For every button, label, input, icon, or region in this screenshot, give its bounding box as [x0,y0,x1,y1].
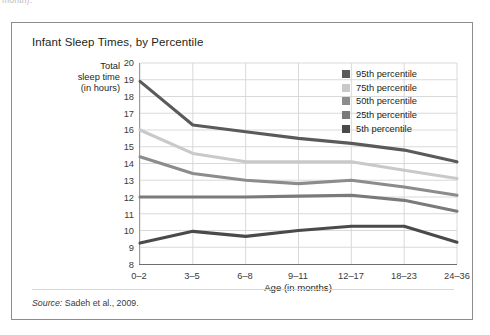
legend-item[interactable]: 95th percentile [342,67,417,81]
y-axis-title-line-3: (in hours) [36,83,120,94]
legend-label: 95th percentile [356,69,417,79]
source-label: Source: [32,298,62,308]
source-note: Source: Sadeh et al., 2009. [32,298,139,308]
y-tick-label: 16 [112,125,134,135]
clipped-top-text: month). [2,0,32,5]
y-tick-label: 11 [112,210,134,220]
y-tick-label: 9 [112,243,134,253]
y-tick-label: 8 [112,260,134,270]
legend-swatch-icon [342,70,350,78]
x-tick-label: 24–36 [444,271,470,281]
y-tick-label: 19 [112,75,134,85]
footer-divider [32,289,454,290]
series-line [140,195,457,211]
legend-item[interactable]: 5th percentile [342,122,417,136]
source-citation: Sadeh et al., 2009. [62,298,138,308]
legend-label: 25th percentile [356,110,417,120]
y-tick-label: 13 [112,176,134,186]
y-axis-title: Total sleep time (in hours) [36,61,120,95]
legend-item[interactable]: 75th percentile [342,81,417,95]
chart-legend: 95th percentile75th percentile50th perce… [342,67,417,136]
legend-swatch-icon [342,84,350,92]
y-tick-label: 18 [112,92,134,102]
y-tick-label: 15 [112,142,134,152]
x-tick-label: 0–2 [131,271,147,281]
legend-label: 75th percentile [356,83,417,93]
legend-item[interactable]: 50th percentile [342,95,417,109]
legend-label: 50th percentile [356,96,417,106]
legend-swatch-icon [342,111,350,119]
x-tick-label: 18–23 [391,271,417,281]
y-axis-title-line-1: Total [36,61,120,72]
x-tick-label: 3–5 [184,271,200,281]
y-tick-label: 17 [112,109,134,119]
y-axis-title-line-2: sleep time [36,72,120,83]
legend-item[interactable]: 25th percentile [342,108,417,122]
legend-swatch-icon [342,125,350,133]
y-tick-label: 14 [112,159,134,169]
figure-frame: Infant Sleep Times, by Percentile Total … [11,22,473,320]
x-axis-title: Age (in months) [139,282,457,293]
y-tick-label: 12 [112,193,134,203]
x-tick-label: 12–17 [338,271,364,281]
series-line [140,226,457,243]
y-tick-label: 20 [112,58,134,68]
y-tick-label: 10 [112,226,134,236]
x-tick-label: 6–8 [237,271,253,281]
x-tick-label: 9–11 [288,271,308,281]
legend-swatch-icon [342,97,350,105]
page-title: Infant Sleep Times, by Percentile [32,36,203,48]
legend-label: 5th percentile [356,124,412,134]
